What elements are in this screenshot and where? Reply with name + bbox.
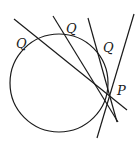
label-q1: Q — [16, 36, 27, 51]
tangent-line — [97, 14, 134, 138]
label-q3: Q — [103, 40, 114, 55]
secant-line-2 — [53, 16, 118, 122]
secant-tangent-diagram: Q Q Q P — [0, 0, 139, 143]
label-p: P — [116, 83, 126, 98]
label-q2: Q — [66, 21, 77, 36]
